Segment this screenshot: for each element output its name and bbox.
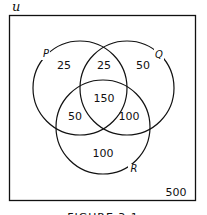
region-p-only: 25 bbox=[57, 59, 71, 72]
region-p-q-r: 150 bbox=[94, 92, 115, 105]
region-q-only: 50 bbox=[136, 59, 150, 72]
region-p-q: 25 bbox=[97, 59, 111, 72]
region-r-only: 100 bbox=[93, 147, 114, 160]
set-q-label: Q bbox=[155, 49, 163, 60]
universe-symbol: u bbox=[12, 0, 20, 14]
figure-caption: FIGURE 3.1 bbox=[67, 211, 139, 215]
region-q-r: 100 bbox=[119, 110, 140, 123]
region-outside: 500 bbox=[166, 186, 187, 199]
set-r-label: R bbox=[131, 163, 138, 174]
region-p-r: 50 bbox=[68, 110, 82, 123]
venn-diagram: u P Q R 25 25 50 150 50 100 100 500 FIGU… bbox=[0, 0, 207, 215]
set-p-label: P bbox=[43, 48, 50, 59]
